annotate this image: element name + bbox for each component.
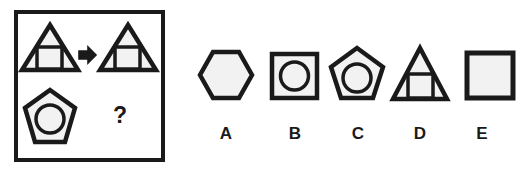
option-d-shape[interactable] (393, 48, 447, 99)
circle-shape (36, 105, 64, 133)
question-mark-placeholder: ? (108, 103, 132, 127)
square-shape (467, 53, 513, 98)
hexagon-shape (200, 52, 252, 98)
square-shape (115, 47, 140, 69)
puzzle-graphics (0, 0, 524, 178)
option-b-shape[interactable] (272, 54, 317, 98)
circle-shape (281, 62, 309, 90)
option-c-shape[interactable] (331, 48, 383, 98)
option-label-d[interactable]: D (405, 125, 435, 143)
circle-shape (343, 64, 371, 92)
option-label-e[interactable]: E (467, 125, 497, 143)
square-shape (37, 47, 62, 69)
option-e-shape[interactable] (467, 53, 513, 98)
visual-analogy-puzzle: ? A B C D E (0, 0, 524, 178)
square-shape (408, 74, 433, 98)
option-label-c[interactable]: C (343, 125, 373, 143)
option-label-a[interactable]: A (211, 125, 241, 143)
option-label-b[interactable]: B (280, 125, 310, 143)
option-a-shape[interactable] (200, 52, 252, 98)
